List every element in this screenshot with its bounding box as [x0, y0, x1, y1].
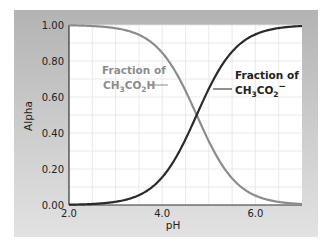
- y-axis-label: Alpha: [22, 101, 34, 131]
- y-tick-labels: 0.000.200.400.600.801.00: [42, 20, 64, 211]
- alpha-vs-ph-chart: 0.000.200.400.600.801.00 2.04.06.0 pH Al…: [0, 0, 334, 244]
- x-axis-label: pH: [166, 219, 181, 231]
- x-tick-label: 2.0: [61, 208, 77, 219]
- y-tick-label: 0.40: [42, 128, 64, 139]
- y-tick-label: 0.20: [42, 164, 64, 175]
- acid-annotation-line1: Fraction of: [102, 64, 166, 76]
- acetate-annotation-line1: Fraction of: [235, 69, 299, 81]
- y-tick-label: 1.00: [42, 20, 64, 31]
- x-tick-label: 6.0: [247, 208, 263, 219]
- x-tick-labels: 2.04.06.0: [61, 208, 263, 219]
- y-tick-label: 0.60: [42, 92, 64, 103]
- y-tick-label: 0.80: [42, 56, 64, 67]
- x-tick-label: 4.0: [154, 208, 170, 219]
